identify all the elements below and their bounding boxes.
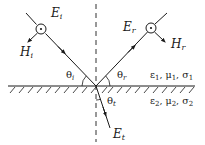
label-theta-incident: θi bbox=[66, 70, 74, 82]
e-field-out-of-page-icon-incident bbox=[36, 24, 46, 34]
label-medium-1: ε1, μ1, σ1 bbox=[150, 70, 193, 82]
label-e-transmitted: Et bbox=[113, 128, 125, 142]
label-theta-transmitted: θt bbox=[107, 96, 116, 108]
label-e-reflected: Er bbox=[123, 21, 136, 35]
angle-arc-incident bbox=[82, 76, 86, 86]
angle-arc-reflected bbox=[106, 76, 110, 86]
e-field-out-of-page-icon-reflected bbox=[146, 23, 156, 33]
interface-hatching bbox=[10, 87, 194, 93]
angle-arc-transmitted bbox=[96, 99, 100, 100]
incident-ray bbox=[26, 13, 96, 86]
label-e-incident: Ei bbox=[51, 7, 62, 21]
label-h-incident: Hi bbox=[20, 46, 33, 60]
h-field-arrow-incident bbox=[29, 33, 38, 41]
h-field-arrow-reflected bbox=[155, 32, 165, 41]
label-medium-2: ε2, μ2, σ2 bbox=[150, 96, 193, 108]
label-theta-reflected: θr bbox=[117, 70, 126, 82]
label-h-reflected: Hr bbox=[171, 38, 185, 52]
